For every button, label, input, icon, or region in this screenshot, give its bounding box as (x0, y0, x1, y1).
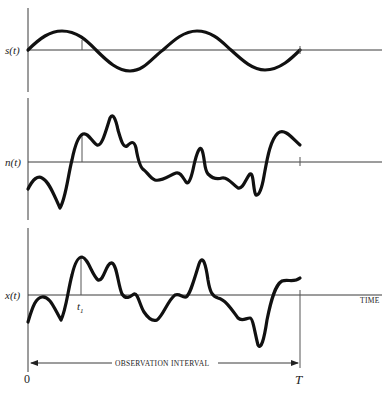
sample-time-label: t1 (77, 300, 84, 315)
interval-label: OBSERVATION INTERVAL (115, 359, 209, 368)
received-curve (28, 257, 300, 346)
observation-diagram: s(t) n(t) x(t) t1 TIME OBSERVATION INTER… (0, 0, 392, 393)
observation-interval: OBSERVATION INTERVAL 0 T (24, 359, 303, 387)
signal-label: s(t) (5, 44, 20, 57)
signal-curve (28, 31, 300, 71)
noise-label: n(t) (5, 156, 21, 169)
noise-panel: n(t) (5, 116, 382, 208)
time-axis-label: TIME (360, 296, 380, 305)
signal-panel: s(t) (5, 31, 382, 71)
interval-start-label: 0 (24, 372, 30, 386)
interval-end-label: T (295, 372, 303, 387)
received-panel: x(t) t1 TIME (4, 257, 382, 368)
received-label: x(t) (4, 289, 21, 302)
